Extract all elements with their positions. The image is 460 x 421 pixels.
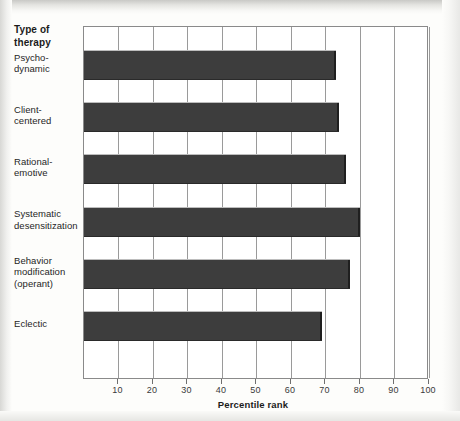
category-label-0-line1: Psycho-: [14, 52, 84, 64]
category-label-4-line2: modification: [14, 266, 84, 278]
x-tick-label-70: 70: [319, 385, 329, 395]
x-tick-100: [428, 379, 429, 384]
gridline-90: [394, 27, 395, 378]
x-axis-title: Percentile rank: [0, 399, 460, 410]
category-label-3: Systematicdesensitization: [14, 208, 84, 231]
category-label-2-line1: Rational-: [14, 156, 84, 168]
x-tick-label-80: 80: [354, 385, 364, 395]
x-tick-90: [393, 379, 394, 384]
bar-end-cap: [334, 51, 336, 79]
x-tick-20: [152, 379, 153, 384]
bar-1: [84, 102, 339, 132]
category-label-3-line2: desensitization: [14, 220, 84, 232]
x-tick-label-10: 10: [112, 385, 122, 395]
y-axis-title-line2: therapy: [14, 37, 80, 50]
x-tick-60: [290, 379, 291, 384]
x-tick-80: [359, 379, 360, 384]
bar-5: [84, 311, 322, 341]
category-label-1-line1: Client-: [14, 104, 84, 116]
bar-chart-figure: Type oftherapy Psycho-dynamicClient-cent…: [0, 0, 460, 421]
category-label-4-line3: (operant): [14, 278, 84, 290]
x-tick-30: [186, 379, 187, 384]
x-tick-label-30: 30: [181, 385, 191, 395]
gridline-80: [360, 27, 361, 378]
x-tick-50: [255, 379, 256, 384]
bar-3: [84, 207, 360, 237]
category-label-5: Eclectic: [14, 318, 84, 330]
x-tick-label-50: 50: [250, 385, 260, 395]
category-label-3-line1: Systematic: [14, 208, 84, 220]
category-label-1-line2: centered: [14, 115, 84, 127]
bar-0: [84, 50, 336, 80]
category-label-0-line2: dynamic: [14, 63, 84, 75]
bar-4: [84, 259, 350, 289]
x-tick-70: [324, 379, 325, 384]
plot-area: [83, 26, 428, 379]
x-tick-10: [117, 379, 118, 384]
bar-end-cap: [337, 103, 339, 131]
bar-2: [84, 154, 346, 184]
category-label-2-line2: emotive: [14, 167, 84, 179]
x-tick-label-20: 20: [147, 385, 157, 395]
x-tick-label-40: 40: [216, 385, 226, 395]
x-tick-label-90: 90: [388, 385, 398, 395]
y-axis-title: Type oftherapy: [14, 24, 80, 49]
x-tick-40: [221, 379, 222, 384]
x-tick-label-60: 60: [285, 385, 295, 395]
category-label-2: Rational-emotive: [14, 156, 84, 179]
category-label-4: Behaviormodification(operant): [14, 255, 84, 290]
bar-end-cap: [344, 155, 346, 183]
y-axis-title-line1: Type of: [14, 24, 80, 37]
category-label-0: Psycho-dynamic: [14, 52, 84, 75]
x-tick-label-100: 100: [420, 385, 436, 395]
bar-end-cap: [320, 312, 322, 340]
gridline-100: [429, 27, 430, 378]
category-label-5-line1: Eclectic: [14, 318, 84, 330]
bar-end-cap: [358, 208, 360, 236]
bar-end-cap: [348, 260, 350, 288]
category-label-1: Client-centered: [14, 104, 84, 127]
category-label-4-line1: Behavior: [14, 255, 84, 267]
